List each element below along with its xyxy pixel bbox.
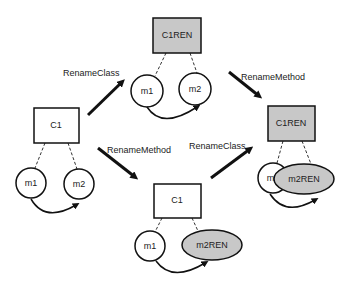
transition-label: RenameMethod xyxy=(241,72,305,82)
method-label: m2 xyxy=(73,179,86,189)
call-arrow xyxy=(270,194,315,207)
transition-label: RenameClass xyxy=(63,68,120,78)
class-label: C1 xyxy=(171,195,183,205)
dashed-link xyxy=(277,141,283,163)
state-initial: C1 m1 m2 xyxy=(16,108,94,213)
dashed-link xyxy=(68,143,77,169)
method-label: m2REN xyxy=(196,240,228,250)
dashed-link xyxy=(192,218,198,231)
state-final: C1REN m1 m2REN xyxy=(258,106,334,207)
state-after-rename-method: C1 m1 m2REN xyxy=(135,184,242,273)
call-arrow xyxy=(31,199,76,213)
class-label: C1REN xyxy=(276,118,307,128)
dashed-link xyxy=(35,143,45,168)
dashed-link xyxy=(190,53,197,73)
refactoring-commute-diagram: C1 m1 m2 C1REN m1 m2 C1 m1 m2REN C1REN xyxy=(0,0,363,292)
transition-label: RenameMethod xyxy=(107,145,171,155)
call-arrow xyxy=(156,261,205,273)
dashed-link xyxy=(155,218,162,232)
dashed-link xyxy=(302,141,311,164)
method-label: m2REN xyxy=(288,174,320,184)
method-label: m1 xyxy=(141,86,154,96)
class-label: C1 xyxy=(50,120,62,130)
call-arrow xyxy=(147,107,197,119)
method-label: m2 xyxy=(189,84,202,94)
dashed-link xyxy=(155,53,166,76)
transition-arrow-rename-class xyxy=(211,149,250,178)
transition-arrow-rename-class xyxy=(88,82,122,115)
method-label: m1 xyxy=(25,178,38,188)
method-label: m1 xyxy=(144,241,157,251)
class-label: C1REN xyxy=(162,30,193,40)
state-after-rename-class: C1REN m1 m2 xyxy=(131,18,211,119)
transition-label: RenameClass xyxy=(189,141,246,151)
